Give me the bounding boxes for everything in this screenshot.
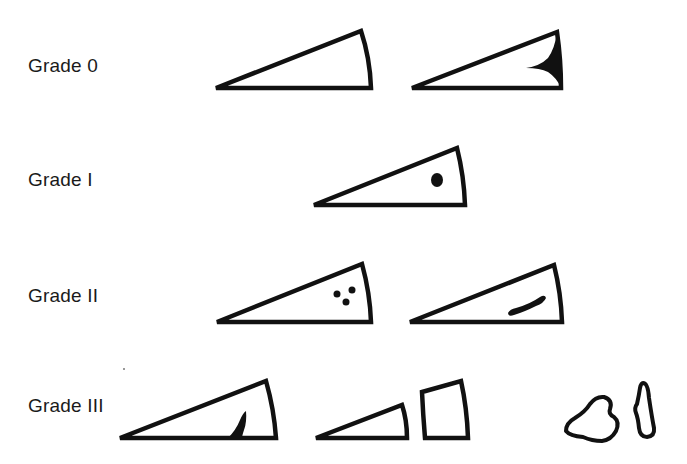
dot-icon [343,299,350,306]
grade-1-figures [314,148,465,205]
wedge-with-surface-tear-icon [120,381,276,438]
small-wedge-fragment-icon [316,405,407,438]
grade-2-figures [217,264,562,322]
grading-diagram [0,0,687,464]
grade-3-figures [120,381,654,441]
grade-0-figures [216,31,561,88]
elongated-sliver-fragment-icon [635,383,654,437]
wedge-with-three-dots-icon [217,264,371,322]
focal-dot-icon [431,173,443,187]
wedge-with-linear-streak-icon [410,265,562,322]
wedge-with-single-dot-icon [314,148,465,205]
wedge-with-dark-apex-recess-icon [412,32,561,88]
speck-artifact [123,368,125,370]
dot-icon [349,287,356,294]
dot-icon [334,291,341,298]
irregular-blob-fragment-icon [566,397,618,441]
quadrilateral-fragment-icon [422,381,468,438]
normal-wedge-icon [216,31,371,88]
